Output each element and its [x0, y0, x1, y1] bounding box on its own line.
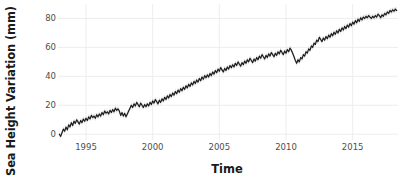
x-axis-tick-labels: 19952000200520102015: [0, 0, 400, 182]
x-tick-label: 2010: [266, 142, 306, 152]
x-tick-label: 2015: [333, 142, 373, 152]
x-axis-title: Time: [56, 160, 398, 178]
x-tick-label: 2005: [199, 142, 239, 152]
chart-figure: Sea Height Variation (mm) 020406080 1995…: [0, 0, 400, 182]
x-tick-label: 1995: [66, 142, 106, 152]
x-tick-label: 2000: [133, 142, 173, 152]
